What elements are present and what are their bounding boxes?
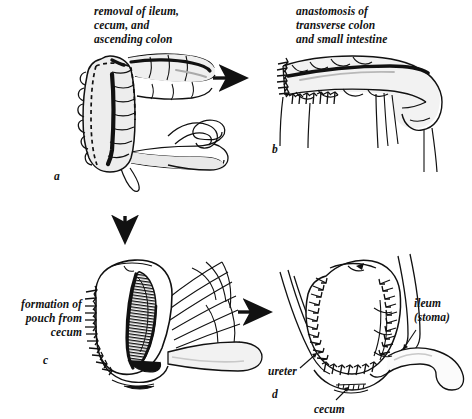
label-cecum: cecum (314, 402, 345, 416)
panel-letter-a: a (54, 170, 60, 182)
panel-b-caption: anastomosis of transverse colon and smal… (296, 4, 387, 47)
panel-b-illustration (277, 55, 442, 172)
ileum-stoma-leader-line (403, 330, 416, 350)
panel-c-illustration (85, 260, 262, 389)
panel-letter-d: d (272, 388, 278, 400)
ileum-loop-c (168, 342, 262, 371)
label-ileum-stoma: ileum (stoma) (414, 296, 450, 324)
panel-a-illustration (78, 54, 228, 191)
ileum-loop-a (120, 120, 225, 191)
panel-c-caption: formation of pouch from cecum (8, 297, 82, 340)
anatomy-drawing (0, 0, 472, 419)
panel-letter-b: b (272, 143, 278, 155)
label-ureter: ureter (268, 364, 297, 378)
ascending-colon-a (78, 56, 135, 172)
panel-a-caption: removal of ileum, cecum, and ascending c… (94, 4, 179, 47)
transverse-colon-a (128, 54, 215, 100)
surgical-figure: removal of ileum, cecum, and ascending c… (0, 0, 472, 419)
panel-d-illustration (280, 254, 464, 400)
panel-letter-c: c (43, 354, 48, 366)
